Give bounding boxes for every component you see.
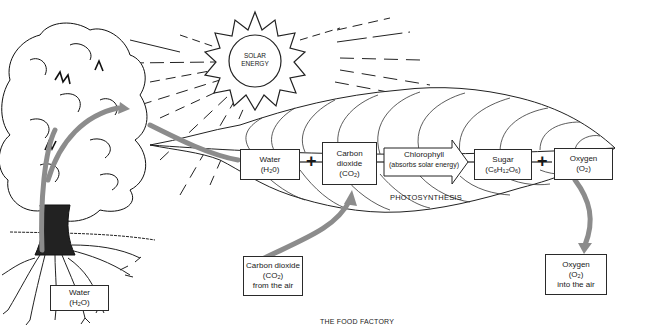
sugar-label: Sugar [492,155,513,165]
roots [2,232,155,325]
co2-air-label: Carbon dioxide [246,261,300,271]
co2-air-formula: (CO2) [263,271,283,281]
water-label: Water [259,155,280,165]
sugar-formula: (C6H12O6) [485,165,520,175]
sun-label-line1: SOLAR [236,52,274,60]
carbon-dioxide-box: Carbon dioxide (CO2) [322,142,377,185]
sun-label: SOLAR ENERGY [236,52,274,68]
oxygen-label: Oxygen [570,154,598,164]
plus-sign-2: + [537,152,548,170]
o2-air-label: Oxygen [562,260,590,270]
root-water-label: Water [69,288,90,298]
co2-formula-pre: (CO [339,169,354,178]
sugar-f-end: ) [518,165,521,174]
root-water-box: Water (H2O) [50,285,109,311]
oxygen-formula-pre: (O [576,164,585,173]
o2-air-formula-post: ) [581,270,584,279]
water-formula-post: 0) [272,165,279,174]
chlorophyll-box: Chlorophyll (absorbs solar energy) [384,150,464,170]
co2-from-air-box: Carbon dioxide (CO2) from the air [243,256,303,296]
sugar-f-c: (C [485,165,493,174]
oxygen-formula: (O2) [576,164,591,174]
tree [0,23,147,255]
co2-formula-post: ) [357,169,360,178]
co2-label-line2: dioxide [337,159,362,169]
diagram-title: THE FOOD FACTORY [320,318,394,325]
sun-label-line2: ENERGY [236,60,274,68]
photosynthesis-label: PHOTOSYNTHESIS [390,193,462,202]
oxygen-box: Oxygen (O2) [554,148,613,180]
co2-air-note: from the air [253,281,293,291]
chlorophyll-note: (absorbs solar energy) [384,160,464,170]
o2-into-air-box: Oxygen (O2) into the air [545,254,607,295]
water-box: Water (H20) [240,149,300,180]
o2-air-formula-pre: (O [569,270,578,279]
root-water-formula: (H2O) [69,298,89,308]
co2-label-line1: Carbon [336,149,362,159]
plus-sign-1: + [306,152,317,170]
co2-formula: (CO2) [339,169,359,179]
co2-air-formula-pre: (CO [263,271,278,280]
oxygen-formula-post: ) [588,164,591,173]
water-formula: (H20) [261,165,280,175]
root-water-formula-post: O) [81,298,90,307]
water-formula-pre: (H [261,165,269,174]
co2-air-formula-post: ) [281,271,284,280]
o2-air-note: into the air [557,280,594,290]
root-water-formula-pre: (H [69,298,77,307]
chlorophyll-label: Chlorophyll [384,150,464,160]
sugar-box: Sugar (C6H12O6) [474,149,532,180]
leaf [150,88,615,213]
o2-air-formula: (O2) [569,270,584,280]
